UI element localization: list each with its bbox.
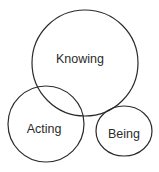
label-acting: Acting	[27, 122, 62, 136]
venn-svg: Knowing Acting Being	[0, 0, 159, 172]
label-being: Being	[108, 127, 140, 141]
label-knowing: Knowing	[56, 52, 104, 66]
venn-diagram: Knowing Acting Being	[0, 0, 159, 172]
